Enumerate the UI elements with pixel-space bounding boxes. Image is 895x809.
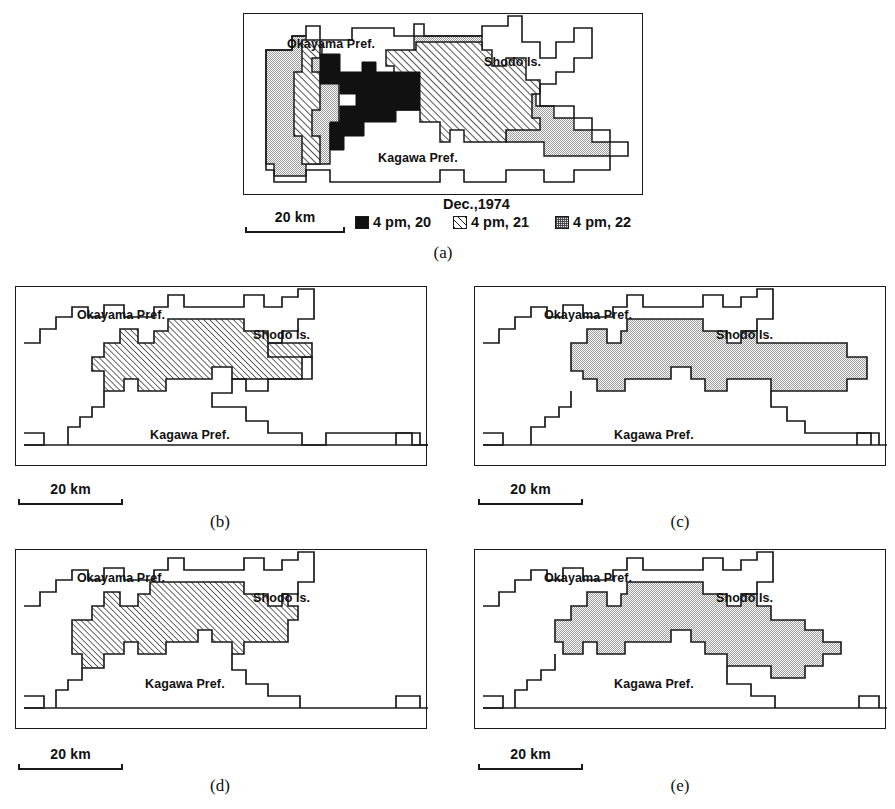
coastline-e-east-tab	[859, 696, 879, 708]
scale-bar-d-tick-left	[18, 764, 20, 770]
coastline-d-south	[232, 654, 300, 708]
scale-bar-a-tick-right	[343, 227, 345, 233]
scale-bar-d-line	[18, 768, 123, 770]
coastline-c-south	[771, 391, 871, 445]
caption-a: (a)	[393, 243, 493, 263]
label-shodo-d: Shodo Is.	[253, 591, 310, 605]
scale-bar-e-tick-right	[581, 764, 583, 770]
caption-b: (b)	[170, 512, 270, 532]
scale-bar-b-label: 20 km	[18, 481, 123, 497]
coastline-e-sw-tab	[483, 696, 503, 708]
label-shodo-a: Shodo Is.	[484, 55, 541, 69]
legend-row: 4 pm, 20 4 pm, 21 4 pm, 22	[355, 214, 631, 230]
legend-swatch-hatched	[453, 216, 467, 229]
label-okayama-e: Okayama Pref.	[544, 571, 632, 585]
coastline-d-east-tab	[396, 696, 420, 708]
panel-a: Okayama Pref. Shodo Is. Kagawa Pref.	[243, 13, 643, 195]
label-shodo-b: Shodo Is.	[253, 328, 310, 342]
legend-item-2: 4 pm, 22	[555, 214, 631, 230]
scale-bar-e-line	[478, 768, 583, 770]
legend-date: Dec.,1974	[443, 196, 510, 212]
scale-bar-c-label: 20 km	[478, 481, 583, 497]
scale-bar-e: 20 km	[478, 742, 583, 770]
label-kagawa-a: Kagawa Pref.	[378, 151, 458, 165]
coastline-b-east-tab	[396, 433, 420, 445]
label-okayama-d: Okayama Pref.	[77, 571, 165, 585]
label-kagawa-b: Kagawa Pref.	[150, 428, 230, 442]
map-frame-e	[474, 549, 886, 729]
legend-label-1: 4 pm, 21	[471, 214, 529, 230]
scale-bar-c-line	[478, 503, 583, 505]
label-okayama-a: Okayama Pref.	[287, 37, 375, 51]
label-kagawa-e: Kagawa Pref.	[614, 677, 694, 691]
region-stipple-e	[555, 582, 841, 678]
scale-bar-d-label: 20 km	[18, 746, 123, 762]
panel-c: Okayama Pref. Shodo Is. Kagawa Pref.	[474, 286, 886, 466]
scale-bar-c-tick-right	[581, 499, 583, 505]
scale-bar-b: 20 km	[18, 477, 123, 505]
label-okayama-c: Okayama Pref.	[544, 308, 632, 322]
caption-e: (e)	[630, 776, 730, 796]
legend-item-0: 4 pm, 20	[355, 214, 431, 230]
caption-d: (d)	[170, 776, 270, 796]
scale-bar-d: 20 km	[18, 742, 123, 770]
label-okayama-b: Okayama Pref.	[77, 308, 165, 322]
label-kagawa-c: Kagawa Pref.	[614, 428, 694, 442]
scale-bar-a: 20 km	[245, 205, 345, 233]
legend-label-2: 4 pm, 22	[573, 214, 631, 230]
caption-c: (c)	[630, 512, 730, 532]
scale-bar-e-tick-left	[478, 764, 480, 770]
scale-bar-a-label: 20 km	[245, 209, 345, 225]
panel-e: Okayama Pref. Shodo Is. Kagawa Pref.	[474, 549, 886, 729]
coastline-c-sw-tab	[483, 433, 503, 445]
scale-bar-a-tick-left	[245, 227, 247, 233]
label-shodo-e: Shodo Is.	[716, 591, 773, 605]
coastline-d-sw-steps	[56, 668, 82, 708]
scale-bar-c: 20 km	[478, 477, 583, 505]
coastline-c-east-tab	[857, 433, 879, 445]
legend-swatch-black	[355, 216, 369, 229]
panel-d: Okayama Pref. Shodo Is. Kagawa Pref.	[15, 549, 427, 729]
scale-bar-b-tick-right	[121, 499, 123, 505]
scale-bar-b-line	[18, 503, 123, 505]
scale-bar-e-label: 20 km	[478, 746, 583, 762]
coastline-e-sw-steps	[515, 654, 555, 708]
coastline-b-southwest	[24, 433, 44, 445]
coastline-e-south	[727, 666, 775, 708]
legend-a: Dec.,1974 4 pm, 20 4 pm, 21 4 pm, 22	[355, 196, 655, 232]
scale-bar-a-line	[245, 231, 345, 233]
coastline-b-sw-steps	[68, 391, 104, 445]
label-kagawa-d: Kagawa Pref.	[145, 677, 225, 691]
scale-bar-d-tick-right	[121, 764, 123, 770]
panel-b: Okayama Pref. Shodo Is. Kagawa Pref.	[15, 286, 427, 466]
legend-swatch-stipple	[555, 216, 569, 229]
scale-bar-c-tick-left	[478, 499, 480, 505]
map-e	[475, 550, 887, 730]
legend-label-0: 4 pm, 20	[373, 214, 431, 230]
legend-item-1: 4 pm, 21	[453, 214, 529, 230]
label-shodo-c: Shodo Is.	[716, 328, 773, 342]
coastline-d-sw-tab	[24, 696, 44, 708]
coastline-c-sw-steps	[531, 391, 571, 445]
scale-bar-b-tick-left	[18, 499, 20, 505]
